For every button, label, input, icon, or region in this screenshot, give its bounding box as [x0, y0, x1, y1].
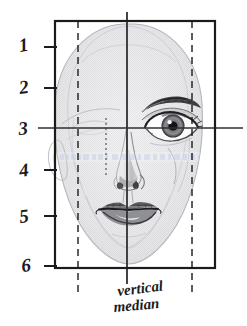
eye-highlight: [168, 120, 172, 124]
caption: vertical median: [113, 277, 165, 315]
diagram-canvas: 1 2 3 4 5 6 vertical median: [0, 0, 247, 326]
proportions-diagram: 1 2 3 4 5 6 vertical median: [0, 0, 247, 326]
watermark: [55, 152, 215, 162]
row-label-3: 3: [16, 117, 29, 139]
